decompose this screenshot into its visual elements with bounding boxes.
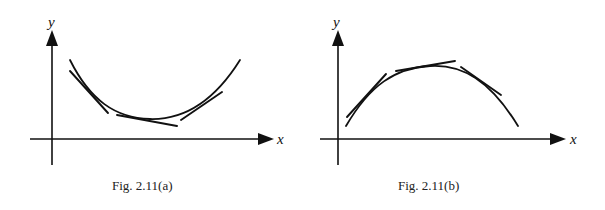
y-axis-arrow-a [46, 30, 58, 46]
x-axis-label-b: x [569, 131, 577, 147]
convex-curve [70, 60, 240, 119]
tangent-line-right-b [461, 67, 501, 95]
tangent-line-left-a [70, 71, 108, 113]
x-axis-label-a: x [276, 131, 284, 147]
x-axis-arrow-a [258, 133, 274, 145]
y-axis-label-b: y [331, 14, 340, 30]
y-axis-arrow-b [332, 30, 344, 46]
x-axis-arrow-b [550, 133, 566, 145]
tangent-line-left-b [347, 74, 386, 117]
diagram-canvas: y x y x [0, 0, 605, 210]
concave-curve [346, 66, 518, 126]
caption-figure-b: Fig. 2.11(b) [398, 178, 459, 194]
tangent-line-bottom-a [117, 115, 177, 126]
figure-a: y x [30, 14, 284, 165]
tangent-line-right-a [181, 92, 222, 120]
caption-figure-a: Fig. 2.11(a) [112, 178, 173, 194]
figure-b: y x [320, 14, 577, 165]
y-axis-label-a: y [46, 14, 55, 30]
